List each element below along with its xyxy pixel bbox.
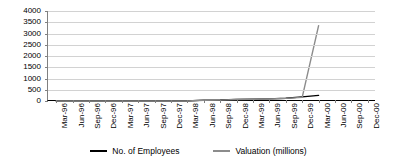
y-axis-tick — [45, 45, 48, 46]
x-axis-tick-label: Mar-96 — [58, 103, 66, 128]
y-axis-tick-label: 4000 — [23, 7, 41, 15]
y-axis-tick — [45, 11, 48, 12]
x-axis-tick-label: Sep-96 — [91, 103, 99, 129]
x-axis-tick-label: Jun-99 — [271, 103, 279, 127]
x-axis-tick-label: Jun-98 — [206, 103, 214, 127]
x-axis-labels: Mar-96Jun-96Sep-96Dec-96Mar-97Jun-97Sep-… — [47, 103, 375, 141]
y-axis-tick — [45, 101, 48, 102]
y-axis-tick — [45, 90, 48, 91]
x-axis-tick-label: Jun-00 — [337, 103, 345, 127]
gridline — [48, 67, 375, 68]
plot-area — [47, 11, 375, 101]
y-axis-tick-label: 1500 — [23, 63, 41, 71]
y-axis-tick-label: 3000 — [23, 30, 41, 38]
legend-line-icon — [90, 150, 107, 152]
y-axis-tick — [45, 79, 48, 80]
y-axis-tick-label: 3500 — [23, 18, 41, 26]
y-axis-labels: 40003500300025002000150010005000 — [0, 0, 44, 110]
legend-line-icon — [213, 150, 230, 152]
x-axis-tick-label: Mar-00 — [321, 103, 329, 128]
legend-item[interactable]: No. of Employees — [90, 147, 179, 156]
x-axis-tick-label: Dec-98 — [239, 103, 247, 129]
x-axis-tick-label: Sep-98 — [222, 103, 230, 129]
x-axis-tick-label: Mar-98 — [189, 103, 197, 128]
y-axis-tick-label: 0 — [37, 97, 41, 105]
y-axis-tick-label: 2000 — [23, 52, 41, 60]
x-axis-tick-label: Sep-99 — [288, 103, 296, 129]
gridline — [48, 45, 375, 46]
y-axis-tick — [45, 34, 48, 35]
gridline — [48, 11, 375, 12]
y-axis-tick-label: 500 — [28, 86, 41, 94]
x-axis-tick-label: Mar-97 — [124, 103, 132, 128]
chart-legend: No. of EmployeesValuation (millions) — [0, 142, 397, 160]
gridline — [48, 56, 375, 57]
y-axis-tick-label: 1000 — [23, 75, 41, 83]
x-axis-tick-label: Sep-00 — [353, 103, 361, 129]
legend-label: Valuation (millions) — [235, 147, 306, 156]
chart-container: 40003500300025002000150010005000 Mar-96J… — [0, 0, 397, 164]
legend-label: No. of Employees — [112, 147, 179, 156]
gridline — [48, 90, 375, 91]
gridline — [48, 79, 375, 80]
x-axis-tick-label: Sep-97 — [157, 103, 165, 129]
x-axis-tick-label: Dec-99 — [304, 103, 312, 129]
gridline — [48, 34, 375, 35]
x-axis-tick-label: Dec-97 — [173, 103, 181, 129]
y-axis-tick — [45, 56, 48, 57]
legend-item[interactable]: Valuation (millions) — [213, 147, 306, 156]
x-axis-tick-label: Dec-00 — [370, 103, 378, 129]
y-axis-tick-label: 2500 — [23, 41, 41, 49]
y-axis-tick — [45, 67, 48, 68]
y-axis-tick — [45, 22, 48, 23]
x-axis-tick-label: Dec-96 — [107, 103, 115, 129]
x-axis-tick-label: Jun-97 — [140, 103, 148, 127]
gridline — [48, 22, 375, 23]
x-axis-tick-label: Jun-96 — [75, 103, 83, 127]
x-axis-tick-label: Mar-99 — [255, 103, 263, 128]
plot-wrapper: 40003500300025002000150010005000 Mar-96J… — [0, 0, 397, 164]
